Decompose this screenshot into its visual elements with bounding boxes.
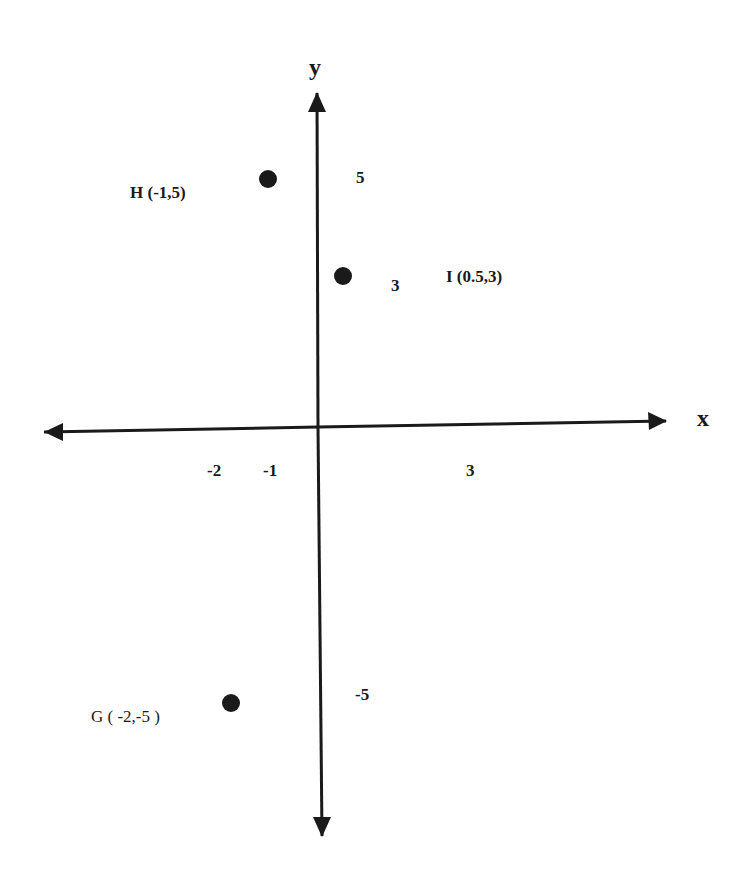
point-g-dot <box>222 694 240 712</box>
plane-canvas <box>0 0 750 885</box>
y-axis-up-arrow-icon <box>308 92 326 112</box>
x-axis-label: x <box>697 406 709 430</box>
point-i-label: I (0.5,3) <box>446 268 502 285</box>
x-axis-left-arrow-icon <box>44 423 63 441</box>
y-tick-label: 5 <box>356 169 365 186</box>
point-h-label: H (-1,5) <box>130 184 186 201</box>
y-axis <box>308 92 331 837</box>
x-tick-label: -2 <box>207 462 221 479</box>
y-tick-label: -5 <box>355 686 369 703</box>
y-axis-label: y <box>309 55 321 79</box>
x-axis <box>44 412 667 441</box>
point-i-dot <box>334 267 352 285</box>
point-g-label: G ( -2,-5 ) <box>91 708 160 725</box>
y-tick-label: 3 <box>391 277 400 294</box>
y-axis-down-arrow-icon <box>313 817 331 837</box>
x-axis-right-arrow-icon <box>648 412 667 430</box>
x-tick-label: -1 <box>263 462 277 479</box>
point-h-dot <box>259 170 277 188</box>
x-tick-label: 3 <box>466 462 475 479</box>
